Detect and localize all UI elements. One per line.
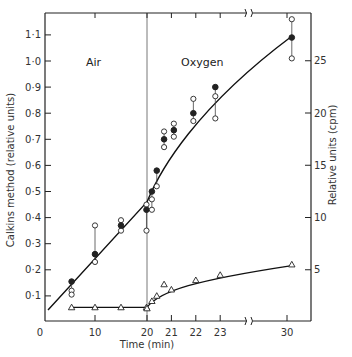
y-right-tick-label: 5: [314, 264, 320, 275]
x-tick-label: 23: [214, 327, 227, 338]
y-right-tick-label: 25: [314, 55, 327, 66]
triangle-marker: [217, 272, 223, 278]
open-circle-marker: [191, 118, 196, 123]
triangle-marker: [154, 293, 160, 299]
triangle-marker: [193, 277, 199, 283]
open-circle-marker: [149, 197, 154, 202]
open-circle-marker: [161, 145, 166, 150]
triangle-marker: [161, 281, 167, 287]
chart: 01020212223300·10·20·30·40·50·60·70·80·9…: [0, 0, 352, 357]
axis-break-icon: [251, 317, 253, 325]
open-circle-marker: [69, 292, 74, 297]
y-left-tick-label: 0·9: [25, 82, 41, 93]
open-circle-marker: [92, 223, 97, 228]
open-circle-marker: [191, 96, 196, 101]
open-circle-marker: [161, 129, 166, 134]
open-circle-marker: [171, 121, 176, 126]
open-circle-marker: [289, 56, 294, 61]
y-left-tick-label: 0·2: [25, 264, 41, 275]
y-left-tick-label: 0·7: [25, 134, 41, 145]
y-right-tick-label: 10: [314, 212, 327, 223]
filled-circle-marker: [69, 279, 75, 285]
open-circle-marker: [154, 184, 159, 189]
open-circle-marker: [118, 218, 123, 223]
y-left-tick-label: 0·4: [25, 212, 41, 223]
y-left-tick-label: 0·8: [25, 108, 41, 119]
x-axis-title: Time (min): [119, 339, 174, 350]
open-circle-marker: [144, 228, 149, 233]
fit-curves: [48, 36, 292, 310]
open-circle-marker: [213, 116, 218, 121]
x-tick-label: 10: [89, 327, 102, 338]
open-circle-marker: [149, 207, 154, 212]
filled-circle-marker: [161, 137, 167, 143]
open-circle-marker: [144, 202, 149, 207]
filled-circle-marker: [289, 35, 295, 41]
open-circle-marker: [289, 17, 294, 22]
open-circle-marker: [171, 134, 176, 139]
filled-circle-marker: [149, 189, 155, 195]
x-tick-label: 20: [141, 327, 154, 338]
open-circle-marker: [213, 94, 218, 99]
y-left-tick-label: 1·1: [25, 29, 41, 40]
open-circle-marker: [118, 228, 123, 233]
annotation-air: Air: [86, 56, 102, 69]
y-right-tick-label: 15: [314, 160, 327, 171]
filled-circle-marker: [191, 110, 197, 116]
triangle-marker: [289, 261, 295, 267]
filled-circle-marker: [213, 84, 219, 90]
open-circle-marker: [92, 259, 97, 264]
triangle-marker: [168, 286, 174, 292]
axis-break-icon: [251, 9, 253, 17]
y-left-tick-label: 1·0: [25, 56, 41, 67]
filled-circle-marker: [144, 207, 150, 213]
x-tick-label: 22: [189, 327, 202, 338]
cpm-fit-curve: [72, 266, 292, 308]
filled-circle-marker: [92, 251, 98, 257]
y-left-axis-title: Calkins method (relative units): [5, 93, 16, 247]
calkins-fit-curve: [48, 36, 292, 310]
x-tick-label: 30: [281, 327, 294, 338]
filled-circle-marker: [171, 127, 177, 133]
y-left-tick-label: 0·1: [25, 290, 41, 301]
axes: [45, 9, 311, 325]
x-tick-label: 21: [165, 327, 178, 338]
annotation-oxygen: Oxygen: [181, 56, 223, 69]
y-left-tick-label: 0·6: [25, 160, 41, 171]
y-right-axis-title: Relative units (cpm): [327, 105, 338, 206]
filled-circle-marker: [154, 168, 160, 174]
y-left-tick-label: 0·3: [25, 238, 41, 249]
y-left-tick-label: 0·5: [25, 186, 41, 197]
filled-circle-marker: [118, 223, 124, 229]
x-tick-label: 0: [37, 327, 43, 338]
y-right-tick-label: 20: [314, 108, 327, 119]
